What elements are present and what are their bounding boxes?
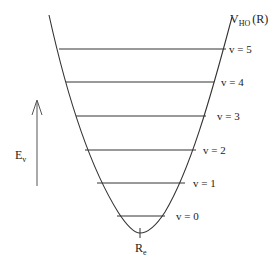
- level-label-v2: v = 2: [203, 144, 226, 156]
- level-label-v3: v = 3: [217, 110, 240, 122]
- equilibrium-label: Re: [135, 241, 147, 257]
- potential-curve: [49, 15, 232, 233]
- level-label-v5: v = 5: [229, 43, 252, 55]
- potential-label: VHO(R): [230, 12, 268, 28]
- level-label-v1: v = 1: [193, 177, 216, 189]
- energy-arrow: [32, 100, 42, 186]
- energy-levels: [59, 49, 226, 216]
- level-label-v4: v = 4: [221, 76, 244, 88]
- level-label-v0: v = 0: [176, 210, 199, 222]
- harmonic-oscillator-diagram: v = 0 v = 1 v = 2 v = 3 v = 4 v = 5 VHO(…: [0, 0, 277, 268]
- energy-axis-label: Ev: [15, 148, 26, 164]
